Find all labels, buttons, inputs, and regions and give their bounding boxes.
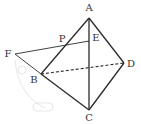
segment-fb — [15, 54, 41, 74]
label-e: E — [92, 32, 99, 43]
label-c: C — [85, 112, 93, 123]
label-p: P — [59, 33, 66, 44]
edge-bd-hidden — [41, 63, 124, 74]
segment-fe — [15, 41, 89, 54]
edge-cd — [89, 63, 124, 110]
edge-bc — [41, 74, 89, 110]
faint-watermark — [15, 60, 53, 111]
label-a: A — [84, 2, 93, 13]
label-f: F — [5, 48, 12, 59]
tetrahedron-diagram: A E P F D B C — [0, 0, 141, 124]
label-d: D — [127, 58, 135, 69]
label-b: B — [30, 74, 37, 85]
edge-ab — [41, 18, 89, 74]
